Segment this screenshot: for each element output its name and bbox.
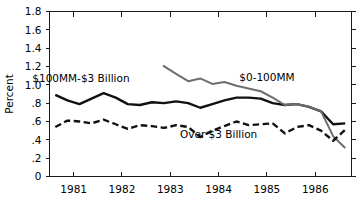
y-tick-label: .8 (31, 97, 41, 109)
x-tick-label: 1985 (254, 183, 281, 195)
y-tick-label: 0 (35, 170, 42, 182)
y-tick-label: 1.6 (25, 24, 42, 36)
y-tick-label: .4 (31, 134, 41, 146)
series-label-0-100mm: $0-100MM (239, 71, 294, 83)
y-tick-label: .2 (31, 152, 41, 164)
series-label-100mm-3-billion: $100MM-$3 Billion (32, 72, 129, 84)
y-tick-label: 1.2 (25, 60, 42, 72)
line-chart: 0.2.4.6.81.01.21.41.61.8 198119821983198… (0, 0, 362, 202)
y-tick-label: 1.4 (25, 42, 42, 54)
chart-container: 0.2.4.6.81.01.21.41.61.8 198119821983198… (0, 0, 362, 202)
caption-strip (0, 194, 362, 202)
x-tick-label: 1981 (60, 183, 87, 195)
series-label-over-3-billion: Over $3 Billion (180, 128, 257, 140)
x-tick-label: 1984 (205, 183, 232, 195)
y-axis-title: Percent (3, 74, 15, 114)
x-tick-label: 1986 (302, 183, 329, 195)
y-tick-label: 1.8 (25, 5, 42, 17)
y-tick-label: .6 (31, 115, 41, 127)
x-tick-label: 1982 (109, 183, 136, 195)
x-tick-label: 1983 (157, 183, 184, 195)
